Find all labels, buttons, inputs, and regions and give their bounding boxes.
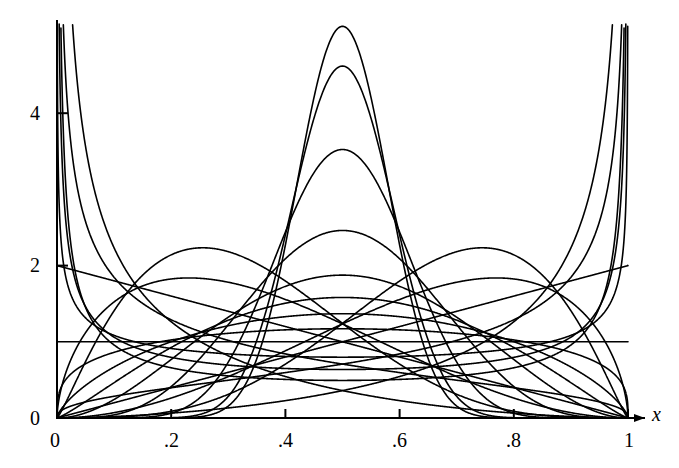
x-tick-label-0.6: .6 [392,430,407,450]
density-curve [57,275,628,418]
beta-density-figure: 0 2 4 0 .2 .4 .6 .8 1 x [0,0,679,468]
density-curve [57,278,628,418]
density-curve [59,24,626,370]
density-curve [57,149,628,418]
y-tick-label-4: 4 [30,103,40,123]
y-tick-label-0: 0 [30,408,40,428]
density-curve [57,26,627,357]
x-tick-label-0.8: .8 [506,430,521,450]
x-axis-label: x [652,404,661,424]
x-tick-label-0.4: .4 [278,430,293,450]
density-curve [57,278,628,418]
axes-group [57,20,645,422]
x-tick-label-0.2: .2 [164,430,179,450]
y-tick-label-2: 2 [30,255,40,275]
density-curve [61,28,624,380]
density-curve [57,66,628,418]
x-tick-label-0: 0 [50,430,60,450]
x-axis-arrowhead [634,414,645,422]
chart-canvas [0,0,679,468]
density-curves-group [57,24,628,418]
x-tick-label-1: 1 [624,430,634,450]
